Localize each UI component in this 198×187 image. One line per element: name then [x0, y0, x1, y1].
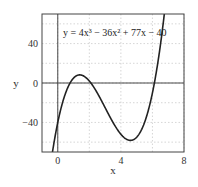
x-axis-label: x [110, 164, 116, 176]
y-tick-label: 40 [28, 38, 38, 49]
cubic-function-chart: 048 400−40 x y y = 4x³ − 36x² + 77x − 40 [0, 0, 198, 187]
y-tick-labels: 400−40 [22, 38, 38, 128]
y-tick-label: −40 [22, 117, 38, 128]
x-tick-label: 8 [182, 155, 187, 166]
x-tick-labels: 048 [55, 155, 186, 166]
x-tick-label: 4 [118, 155, 123, 166]
x-tick-label: 0 [55, 155, 60, 166]
y-tick-label: 0 [33, 78, 38, 89]
y-axis-label: y [13, 77, 19, 89]
equation-annotation: y = 4x³ − 36x² + 77x − 40 [63, 27, 167, 38]
